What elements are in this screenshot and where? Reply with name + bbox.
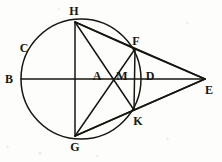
- point-label-e: E: [205, 84, 213, 96]
- scan-speck: [166, 138, 169, 140]
- point-label-k: K: [133, 115, 142, 127]
- geometry-figure: BCHFAMDEKG: [0, 0, 222, 162]
- segments-group: [21, 22, 205, 136]
- point-label-a: A: [93, 70, 102, 82]
- point-label-h: H: [69, 5, 78, 17]
- geometry-canvas: [0, 0, 222, 162]
- scan-speck: [38, 152, 42, 154]
- point-label-m: M: [116, 70, 127, 82]
- point-label-f: F: [132, 35, 139, 47]
- point-label-g: G: [70, 141, 79, 153]
- scan-speck: [6, 146, 9, 148]
- point-label-d: D: [146, 70, 155, 82]
- scan-speck: [58, 8, 60, 10]
- scan-speck: [96, 155, 99, 157]
- point-label-b: B: [5, 73, 13, 85]
- point-label-c: C: [20, 42, 29, 54]
- scan-speck: [186, 22, 189, 24]
- segment-FK-vertical-chord: [134, 49, 135, 110]
